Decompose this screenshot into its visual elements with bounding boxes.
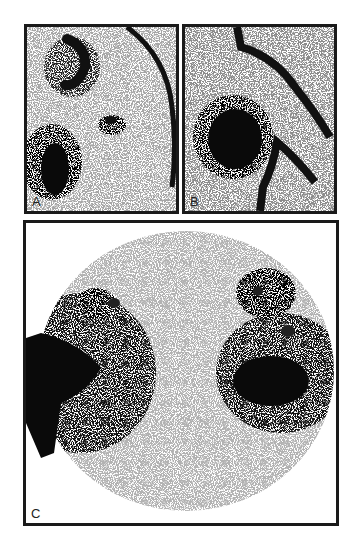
scintigram-image-c: [26, 223, 336, 523]
panel-a-label: A: [32, 195, 41, 208]
panel-c: C: [23, 220, 339, 526]
scintigram-image-a: [27, 27, 176, 211]
panel-b: B: [182, 24, 337, 214]
scintigram-image-b: [185, 27, 334, 211]
panel-c-label: C: [31, 507, 40, 520]
panel-b-label: B: [190, 195, 199, 208]
panel-a: A: [24, 24, 179, 214]
